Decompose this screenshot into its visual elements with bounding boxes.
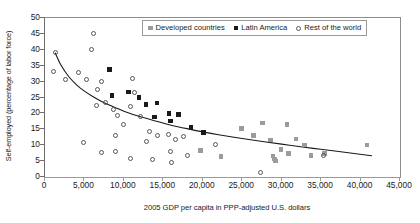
legend-item-developed-countries[interactable]: Developed countries [148,24,225,32]
data-point-rest-of-the-world [89,47,94,52]
data-point-rest-of-the-world [155,133,160,138]
data-point-developed-countries [294,137,299,142]
data-point-rest-of-the-world [173,137,178,142]
data-point-latin-america [152,115,157,120]
data-point-latin-america [168,119,173,124]
data-point-developed-countries [239,126,244,131]
data-point-rest-of-the-world [181,134,186,139]
chart-legend: Developed countries Latin America Rest o… [142,20,367,36]
data-point-rest-of-the-world [81,140,86,145]
legend-swatch-gray-square-icon [148,26,153,31]
data-point-developed-countries [309,153,314,158]
x-axis-tick-mark [202,177,203,181]
data-point-developed-countries [273,159,278,164]
legend-swatch-open-circle-icon [296,26,301,31]
y-axis-tick-label: 15 [18,124,40,132]
data-point-rest-of-the-world [113,149,118,154]
data-point-rest-of-the-world [95,87,100,92]
x-axis-tick-mark [281,177,282,181]
data-point-rest-of-the-world [169,160,174,165]
data-point-rest-of-the-world [84,77,89,82]
data-point-rest-of-the-world [132,90,137,95]
plot-area [44,17,401,178]
x-axis-tick-mark [320,177,321,181]
data-point-latin-america [155,101,160,106]
data-point-latin-america [110,93,115,98]
data-point-developed-countries [219,154,224,159]
data-point-developed-countries [286,151,291,156]
data-point-rest-of-the-world [113,133,118,138]
x-axis-label: 2005 GDP per capita in PPP-adjusted U.S.… [44,203,410,212]
data-point-developed-countries [302,143,307,148]
data-point-rest-of-the-world [168,149,173,154]
data-point-rest-of-the-world [321,153,326,158]
data-point-rest-of-the-world [258,170,263,175]
data-point-developed-countries [260,121,265,126]
data-point-developed-countries [279,147,284,152]
y-axis-label: Self-employed (percentage of labor force… [2,0,16,196]
y-axis-tick-label: 5 [18,156,40,164]
x-axis-tick-mark [399,177,400,181]
legend-item-rest-of-the-world[interactable]: Rest of the world [296,24,361,32]
data-point-developed-countries [365,143,370,148]
data-point-rest-of-the-world [185,153,190,158]
data-point-developed-countries [285,122,290,127]
data-point-rest-of-the-world [128,156,133,161]
data-point-rest-of-the-world [53,50,58,55]
data-point-latin-america [144,102,149,107]
data-point-rest-of-the-world [115,113,120,118]
data-point-rest-of-the-world [111,107,116,112]
data-point-latin-america [201,130,206,135]
y-axis-tick-label: 25 [18,93,40,101]
legend-label: Latin America [241,24,287,32]
data-point-rest-of-the-world [99,150,104,155]
data-point-latin-america [189,125,194,130]
data-point-developed-countries [198,148,203,153]
x-axis-tick-mark [241,177,242,181]
x-axis-tick-mark [360,177,361,181]
data-point-rest-of-the-world [91,31,96,36]
data-point-latin-america [176,112,181,117]
data-point-rest-of-the-world [130,76,135,81]
legend-swatch-black-square-icon [234,26,239,31]
data-point-developed-countries [268,138,273,143]
data-point-rest-of-the-world [51,69,56,74]
data-point-developed-countries [251,133,256,138]
data-point-rest-of-the-world [138,114,143,119]
data-point-rest-of-the-world [99,79,104,84]
data-point-rest-of-the-world [147,129,152,134]
data-point-rest-of-the-world [144,139,149,144]
data-point-rest-of-the-world [103,100,108,105]
y-axis-tick-label: 40 [18,45,40,53]
y-axis-tick-label: 20 [18,108,40,116]
y-axis-tick-label: 30 [18,77,40,85]
chart-figure: Self-employed (percentage of labor force… [0,0,420,223]
x-axis-tick-label: 45,000 [376,181,420,189]
trend-line [45,18,400,177]
data-point-rest-of-the-world [213,142,218,147]
data-point-latin-america [167,111,172,116]
y-axis-tick-label: 50 [18,13,40,21]
legend-label: Developed countries [156,24,225,32]
y-axis-tick-label: 10 [18,140,40,148]
data-point-rest-of-the-world [94,103,99,108]
x-axis-tick-mark [83,177,84,181]
x-axis-tick-mark [44,177,45,181]
data-point-rest-of-the-world [128,104,133,109]
data-point-rest-of-the-world [63,77,68,82]
data-point-rest-of-the-world [76,70,81,75]
y-axis-tick-label: 35 [18,61,40,69]
y-axis-tick-label: 0 [18,172,40,180]
y-axis-tick-label: 45 [18,29,40,37]
legend-label: Rest of the world [304,24,361,32]
data-point-latin-america [137,95,142,100]
data-point-latin-america [126,90,131,95]
legend-item-latin-america[interactable]: Latin America [234,24,288,32]
data-point-rest-of-the-world [121,122,126,127]
data-point-latin-america [107,67,112,72]
data-point-rest-of-the-world [150,157,155,162]
x-axis-tick-mark [123,177,124,181]
data-point-rest-of-the-world [166,132,171,137]
x-axis-tick-mark [162,177,163,181]
